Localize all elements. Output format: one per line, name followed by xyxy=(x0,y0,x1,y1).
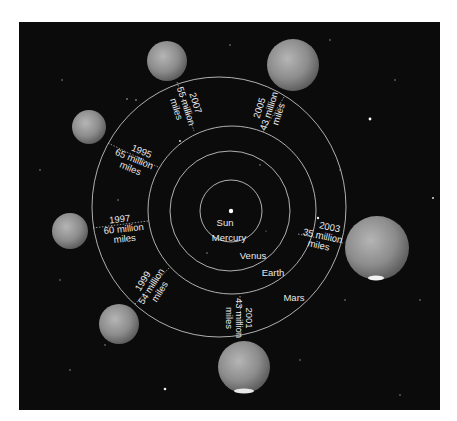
mars-1997 xyxy=(52,213,88,249)
mars-label: Mars xyxy=(283,292,304,303)
svg-text:miles: miles xyxy=(113,232,136,245)
mercury-label: Mercury xyxy=(212,232,247,243)
opposition-2001: 2001 43 million miles xyxy=(224,298,255,338)
venus-label: Venus xyxy=(240,250,267,261)
mars-2007 xyxy=(147,41,187,81)
mars-1999 xyxy=(99,304,139,344)
opposition-2005: 2005 43 million miles xyxy=(248,87,290,135)
mars-2001 xyxy=(218,341,270,394)
sun-icon xyxy=(229,209,233,213)
mars-2003 xyxy=(345,216,409,281)
opposition-1997: 1997 60 million miles xyxy=(102,211,145,246)
earth-label: Earth xyxy=(262,267,285,278)
solar-system-diagram: Sun Mercury Venus Earth Mars 2007 55 mil… xyxy=(0,0,457,421)
sun-label: Sun xyxy=(217,217,234,228)
mars-2005 xyxy=(267,39,319,91)
svg-text:miles: miles xyxy=(224,307,235,329)
mars-1995 xyxy=(72,110,106,144)
opposition-2007: 2007 55 million miles xyxy=(165,82,207,130)
mars-orbit xyxy=(92,77,346,337)
opposition-1995: 1995 65 million miles xyxy=(110,137,159,181)
